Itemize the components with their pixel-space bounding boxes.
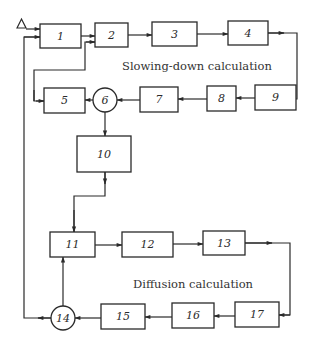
node-1: 1 <box>40 24 81 48</box>
node-14: 14 <box>51 306 75 330</box>
node-7: 7 <box>140 87 178 112</box>
edge-14-1 <box>24 37 51 318</box>
node-15: 15 <box>101 304 145 329</box>
node-6: 6 <box>93 88 117 112</box>
flowchart-diagram: 1 2 3 4 5 6 7 8 9 10 11 12 <box>0 0 315 349</box>
node-label: 11 <box>66 238 80 251</box>
node-label: 5 <box>61 94 68 107</box>
node-label: 12 <box>141 238 155 251</box>
node-label: 9 <box>272 91 279 104</box>
node-16: 16 <box>172 303 214 328</box>
node-label: 1 <box>57 30 64 43</box>
node-label: 14 <box>56 312 70 325</box>
node-label: 7 <box>156 93 163 106</box>
node-3: 3 <box>152 22 197 46</box>
node-5: 5 <box>44 88 85 113</box>
node-2: 2 <box>95 23 128 47</box>
node-label: 15 <box>116 310 130 323</box>
node-label: 4 <box>244 27 252 40</box>
node-9: 9 <box>255 85 296 110</box>
node-17: 17 <box>235 302 279 327</box>
node-label: 10 <box>97 148 111 161</box>
section-label-slowing-down: Slowing-down calculation <box>122 59 272 73</box>
node-label: 2 <box>107 29 115 42</box>
node-12: 12 <box>122 232 173 257</box>
node-4: 4 <box>228 21 268 45</box>
node-label: 17 <box>250 308 264 321</box>
edge-10-11 <box>74 172 105 232</box>
input-triangle-icon <box>17 19 26 28</box>
node-10: 10 <box>77 136 131 172</box>
node-label: 8 <box>218 92 225 105</box>
node-label: 16 <box>186 309 200 322</box>
node-label: 3 <box>171 28 178 41</box>
node-label: 6 <box>102 94 109 107</box>
section-label-diffusion: Diffusion calculation <box>133 277 254 291</box>
node-label: 13 <box>217 237 231 250</box>
node-13: 13 <box>203 231 245 255</box>
node-11: 11 <box>50 232 95 257</box>
node-8: 8 <box>207 86 236 111</box>
